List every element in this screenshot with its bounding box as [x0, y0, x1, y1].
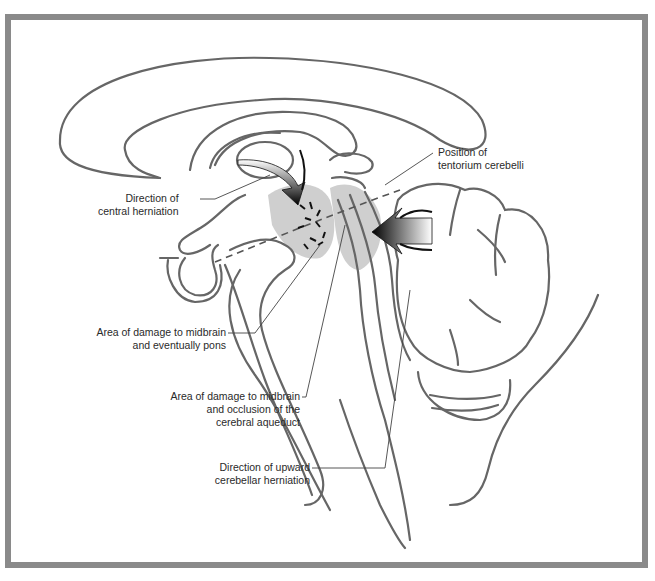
- leader-tentorium: [385, 153, 433, 185]
- hypothalamus: [179, 195, 245, 254]
- corpus-callosum: [60, 58, 486, 178]
- label-upward-herniation: Direction of upward cerebellar herniatio…: [200, 461, 310, 487]
- occipital-bone: [450, 295, 598, 505]
- damage-shading: [268, 184, 381, 270]
- brain-sagittal-diagram: [0, 0, 655, 581]
- brain-outlines: [60, 58, 598, 548]
- lateral-ventricle: [190, 112, 356, 170]
- leader-midbrain-pons: [228, 245, 320, 333]
- label-central-herniation: Direction of central herniation: [98, 192, 179, 218]
- upward-herniation-arrow: [372, 208, 432, 254]
- cerebellum: [394, 184, 550, 372]
- label-midbrain-aqueduct: Area of damage to midbrain and occlusion…: [140, 390, 300, 429]
- label-tentorium: Position of tentorium cerebelli: [438, 146, 524, 172]
- spinal-cord: [340, 400, 405, 548]
- label-midbrain-pons: Area of damage to midbrain and eventuall…: [86, 326, 226, 352]
